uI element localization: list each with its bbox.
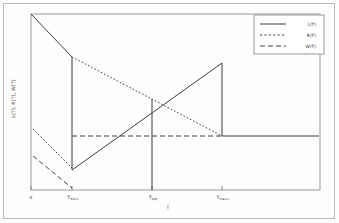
x-tick-label-0: 0 [21, 195, 41, 200]
series-rt [33, 57, 222, 168]
x-tick-label-3: Tmax,L [207, 195, 239, 200]
x-tick-marks [31, 186, 222, 190]
legend-label-wt: W(T) [306, 44, 317, 49]
y-axis-label: L(T), R(T), W(T) [11, 64, 16, 134]
x-axis-label: T [148, 205, 188, 210]
legend-label-rt: R(T) [307, 33, 316, 38]
x-tick-label-1: Tmin,L [58, 195, 88, 200]
x-tick-label-2: Topt [139, 195, 167, 200]
series-wt [33, 136, 222, 188]
chart-figure: L(T) R(T) W(T) L(T), R(T), W(T) T 0 Tmin… [0, 0, 339, 223]
plot-canvas: L(T) R(T) W(T) [0, 0, 339, 223]
legend-label-lt: L(T) [307, 22, 316, 27]
